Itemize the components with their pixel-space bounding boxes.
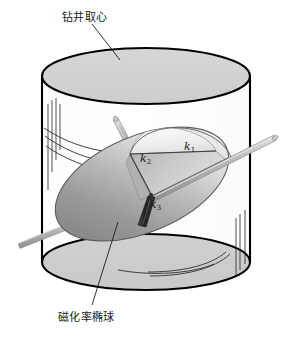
axis-label-k2-base: k bbox=[140, 152, 147, 165]
label-susceptibility-ellipsoid: 磁化率椭球 bbox=[58, 308, 115, 324]
axis-label-k1: k1 bbox=[184, 140, 195, 154]
figure-canvas: 钻井取心 磁化率椭球 k1 k2 k3 bbox=[0, 0, 292, 339]
diagram-svg bbox=[0, 0, 292, 339]
axis-label-k3-subscript: 3 bbox=[157, 204, 161, 212]
label-drill-core: 钻井取心 bbox=[62, 8, 107, 24]
axis-origin-node bbox=[149, 193, 153, 197]
axis-label-k2-subscript: 2 bbox=[147, 158, 151, 166]
axis-label-k1-subscript: 1 bbox=[191, 146, 195, 154]
axis-label-k3-base: k bbox=[150, 198, 157, 211]
axis-label-k1-base: k bbox=[184, 140, 191, 153]
axis-label-k3: k3 bbox=[150, 198, 161, 212]
axis-label-k2: k2 bbox=[140, 152, 151, 166]
cylinder-top-disc bbox=[42, 48, 250, 104]
